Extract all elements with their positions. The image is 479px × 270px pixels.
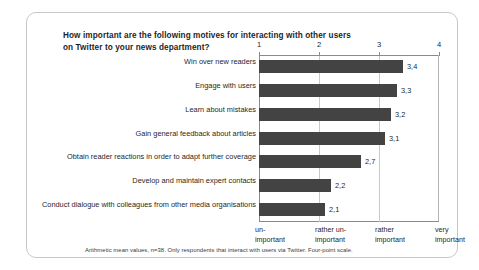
bar-row: 3,4Win over new readers xyxy=(259,55,439,79)
scale-label-1: un-important xyxy=(255,225,313,244)
bar xyxy=(259,203,325,216)
bar xyxy=(259,108,391,121)
bar-value-label: 3,3 xyxy=(401,86,411,95)
bar xyxy=(259,179,331,192)
bar-row: 2,1Conduct dialogue with colleagues from… xyxy=(259,198,439,222)
category-label: Win over new readers xyxy=(41,57,256,66)
scale-label-line1: un- xyxy=(255,225,313,235)
scale-labels: un-importantrather un-importantratherimp… xyxy=(259,225,459,249)
scale-label-line1: rather un- xyxy=(315,225,373,235)
bar-value-label: 2,2 xyxy=(335,181,345,190)
tick-label-2: 2 xyxy=(317,40,321,49)
bar-row: 3,1Gain general feedback about articles xyxy=(259,127,439,151)
scale-label-4: veryimportant xyxy=(435,225,479,244)
bar xyxy=(259,132,385,145)
bar-row: 2,7Obtain reader reactions in order to a… xyxy=(259,150,439,174)
bar-row: 3,2Learn about mistakes xyxy=(259,103,439,127)
bar-row: 2,2Develop and maintain expert contacts xyxy=(259,174,439,198)
tick-mark-4 xyxy=(439,52,440,56)
bar-value-label: 3,1 xyxy=(389,134,399,143)
bar-value-label: 2,7 xyxy=(365,157,375,166)
bar-row: 3,3Engage with users xyxy=(259,79,439,103)
category-label: Conduct dialogue with colleagues from ot… xyxy=(41,200,256,209)
tick-label-1: 1 xyxy=(257,40,261,49)
bar-value-label: 3,4 xyxy=(407,62,417,71)
scale-label-line1: very xyxy=(435,225,479,235)
category-label: Obtain reader reactions in order to adap… xyxy=(41,152,256,161)
plot-area: 1234 3,4Win over new readers3,3Engage wi… xyxy=(259,55,439,222)
scale-label-line2: important xyxy=(315,235,373,245)
footnote: Arithmetic mean values, n=38. Only respo… xyxy=(85,247,353,253)
scale-label-line2: important xyxy=(255,235,313,245)
scale-label-line1: rather xyxy=(375,225,433,235)
scale-label-2: rather un-important xyxy=(315,225,373,244)
category-label: Engage with users xyxy=(41,81,256,90)
scale-label-line2: important xyxy=(435,235,479,245)
category-label: Gain general feedback about articles xyxy=(41,129,256,138)
category-label: Learn about mistakes xyxy=(41,105,256,114)
scale-label-line2: important xyxy=(375,235,433,245)
bar xyxy=(259,60,403,73)
bar-value-label: 2,1 xyxy=(329,205,339,214)
tick-label-3: 3 xyxy=(377,40,381,49)
bar-value-label: 3,2 xyxy=(395,110,405,119)
bar xyxy=(259,84,397,97)
figure-frame: How important are the following motives … xyxy=(26,12,458,258)
category-label: Develop and maintain expert contacts xyxy=(41,176,256,185)
bar xyxy=(259,155,361,168)
tick-label-4: 4 xyxy=(437,40,441,49)
scale-label-3: ratherimportant xyxy=(375,225,433,244)
